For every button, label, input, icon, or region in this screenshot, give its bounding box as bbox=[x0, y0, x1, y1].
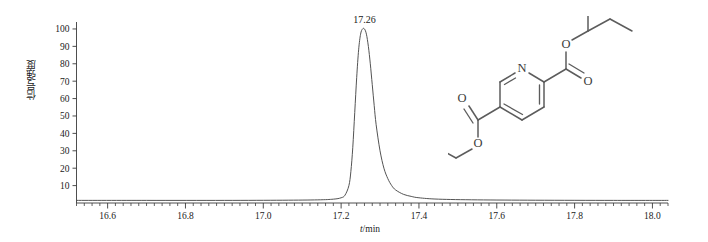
x-tick-label: 17.4 bbox=[411, 211, 428, 221]
lower-carbonyl-oxygen-label: O bbox=[457, 91, 466, 105]
bond-lower-propyl-c2 bbox=[448, 146, 456, 158]
bond-c5-to-lower-carbonyl bbox=[478, 107, 500, 120]
x-tick-label: 17.6 bbox=[488, 211, 505, 221]
x-tick-label: 17.8 bbox=[566, 211, 583, 221]
chromatogram-figure: 信号强度 102030405060708090100 16.616.817.01… bbox=[0, 0, 708, 242]
lower-ester-oxygen-label: O bbox=[473, 136, 482, 150]
x-tick-label: 16.6 bbox=[99, 211, 116, 221]
y-tick-label: 70 bbox=[60, 77, 70, 87]
pyridine-ring: N bbox=[500, 61, 544, 120]
ring-bond-c6-n bbox=[500, 73, 515, 82]
y-tick-label: 10 bbox=[60, 181, 70, 191]
y-tick-label: 20 bbox=[60, 164, 70, 174]
ring-bond-c4-c5 bbox=[500, 107, 522, 120]
bond-c2-to-upper-carbonyl bbox=[544, 69, 566, 82]
chemical-structure-dipropyl-pyridine-2-5-dicarboxylate: N O O O O bbox=[448, 16, 658, 164]
bond-upper-propyl-c3 bbox=[588, 19, 610, 31]
y-tick-label: 90 bbox=[60, 42, 70, 52]
bond-lower-propyl-c1 bbox=[456, 149, 472, 158]
y-tick-label: 80 bbox=[60, 59, 70, 69]
ring-bond-c4-c5-inner bbox=[504, 104, 523, 115]
ring-nitrogen-label: N bbox=[517, 61, 526, 75]
y-tick-label: 60 bbox=[60, 94, 70, 104]
ring-bond-c3-c4 bbox=[522, 107, 544, 120]
upper-ester-oxygen-label: O bbox=[561, 37, 570, 51]
x-tick-label: 18.0 bbox=[644, 211, 661, 221]
x-axis-title: t/min bbox=[360, 224, 380, 234]
x-tick-label: 16.8 bbox=[177, 211, 194, 221]
upper-carbonyl-oxygen-label: O bbox=[583, 74, 592, 88]
y-tick-label: 40 bbox=[60, 129, 70, 139]
upper-ester-group: O O bbox=[544, 16, 632, 88]
ring-bond-n-c2 bbox=[529, 73, 544, 82]
x-tick-label: 17.0 bbox=[255, 211, 272, 221]
y-axis-ticks: 102030405060708090100 bbox=[55, 24, 76, 191]
peak-retention-time-label: 17.26 bbox=[353, 14, 376, 25]
y-tick-label: 50 bbox=[60, 111, 70, 121]
x-axis-title-unit: /min bbox=[363, 224, 381, 234]
x-tick-label: 17.2 bbox=[333, 211, 350, 221]
lower-ester-group: O O bbox=[448, 91, 500, 158]
y-tick-label: 30 bbox=[60, 146, 70, 156]
bond-upper-propyl-c1 bbox=[572, 31, 588, 40]
y-tick-label: 100 bbox=[55, 24, 70, 34]
bond-upper-propyl-c4 bbox=[610, 19, 632, 31]
